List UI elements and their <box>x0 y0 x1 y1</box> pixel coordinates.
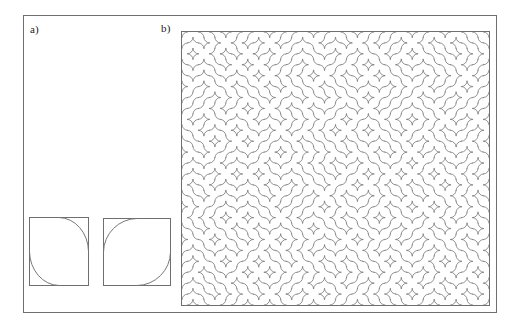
panel-a <box>23 15 178 313</box>
truchet-prototype-tile-nw-se <box>103 218 171 286</box>
truchet-prototype-tile-ne-sw <box>29 217 89 286</box>
figure-root: a) b) <box>0 0 510 328</box>
panel-b-truchet-tiling <box>181 31 490 306</box>
